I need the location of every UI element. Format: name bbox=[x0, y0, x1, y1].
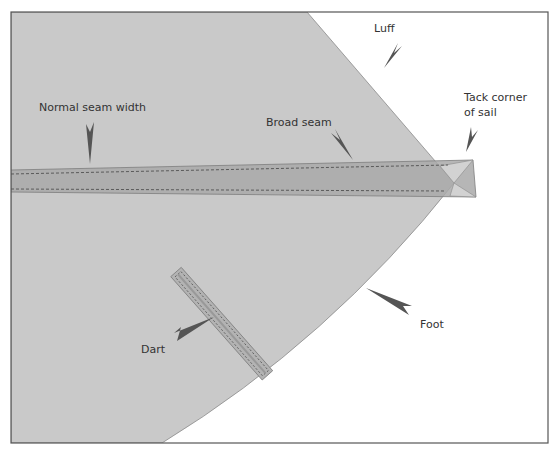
label-dart: Dart bbox=[141, 343, 166, 356]
label-normal-seam: Normal seam width bbox=[39, 101, 146, 114]
sail-seam-diagram: Luff Tack corner of sail Broad seam Norm… bbox=[0, 0, 554, 449]
label-tack-line2: of sail bbox=[464, 106, 497, 119]
label-broad-seam: Broad seam bbox=[266, 116, 332, 129]
label-foot: Foot bbox=[420, 318, 444, 331]
label-tack-line1: Tack corner bbox=[463, 91, 527, 104]
label-luff: Luff bbox=[374, 22, 395, 35]
